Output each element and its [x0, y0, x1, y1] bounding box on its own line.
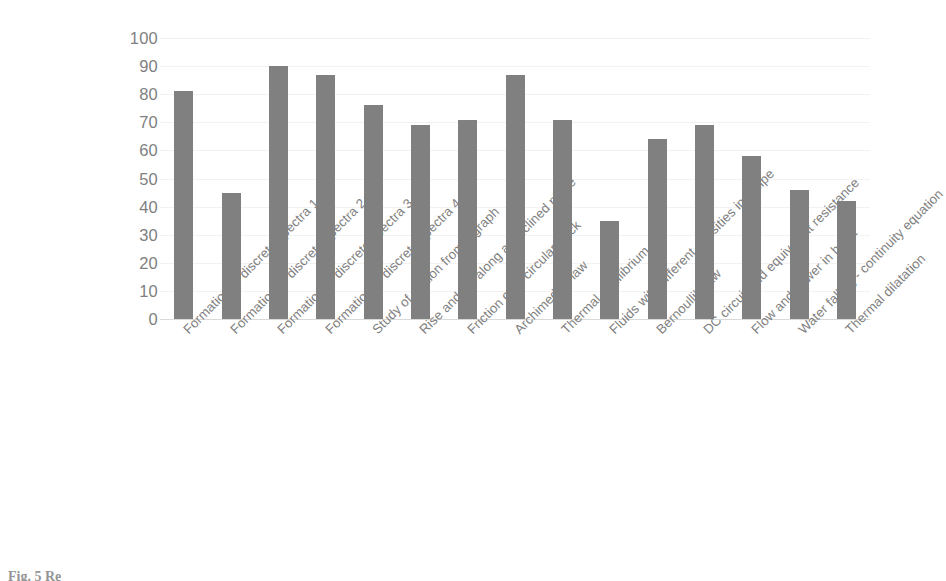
- y-axis: 1009080706050403020100: [118, 0, 158, 360]
- figure-caption: Fig. 5 Re: [8, 569, 61, 581]
- bar[interactable]: [695, 125, 714, 319]
- y-tick-label: 60: [118, 142, 158, 159]
- y-tick-label: 100: [118, 30, 158, 47]
- bar[interactable]: [411, 125, 430, 319]
- bar[interactable]: [600, 221, 619, 319]
- gridline-100: [160, 38, 870, 39]
- bar[interactable]: [316, 75, 335, 319]
- bar[interactable]: [174, 91, 193, 319]
- y-tick-label: 90: [118, 58, 158, 75]
- gridline-0: [160, 319, 870, 320]
- bar[interactable]: [648, 139, 667, 319]
- bar[interactable]: [269, 66, 288, 319]
- bar[interactable]: [837, 201, 856, 319]
- bar[interactable]: [790, 190, 809, 319]
- plot-area: [160, 38, 870, 319]
- y-tick-label: 0: [118, 311, 158, 328]
- bar[interactable]: [364, 105, 383, 319]
- bar[interactable]: [506, 75, 525, 319]
- bar[interactable]: [222, 193, 241, 319]
- y-tick-label: 20: [118, 255, 158, 272]
- bar[interactable]: [458, 120, 477, 320]
- y-tick-label: 10: [118, 283, 158, 300]
- y-tick-label: 50: [118, 170, 158, 187]
- y-tick-label: 30: [118, 226, 158, 243]
- bar[interactable]: [553, 120, 572, 320]
- bar[interactable]: [742, 156, 761, 319]
- gridline-90: [160, 66, 870, 67]
- y-tick-label: 80: [118, 86, 158, 103]
- y-tick-label: 70: [118, 114, 158, 131]
- y-tick-label: 40: [118, 198, 158, 215]
